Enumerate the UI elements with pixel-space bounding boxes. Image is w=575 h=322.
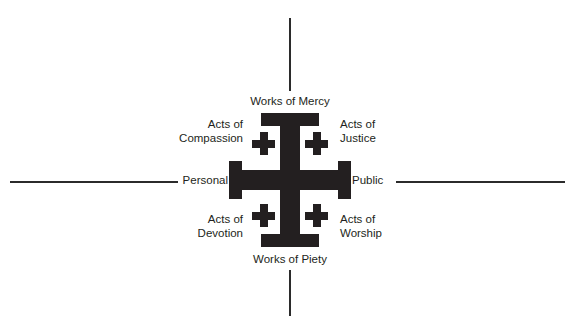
axis-line-bottom	[289, 270, 291, 316]
quadrant-label-acts-of-worship: Acts of Worship	[340, 213, 465, 240]
axis-line-top	[289, 18, 291, 91]
quadrant-label-acts-of-devotion: Acts of Devotion	[118, 213, 243, 240]
jerusalem-cross-svg	[229, 113, 351, 247]
quadrant-label-acts-of-justice: Acts of Justice	[340, 118, 465, 145]
jerusalem-cross-icon	[229, 113, 351, 247]
diagram-canvas: Works of Mercy Works of Piety Personal P…	[0, 0, 575, 322]
axis-label-public: Public	[352, 174, 462, 188]
axis-label-personal: Personal	[118, 174, 228, 188]
axis-label-works-of-piety: Works of Piety	[215, 253, 365, 267]
axis-label-works-of-mercy: Works of Mercy	[215, 95, 365, 109]
quadrant-label-acts-of-compassion: Acts of Compassion	[118, 118, 243, 145]
